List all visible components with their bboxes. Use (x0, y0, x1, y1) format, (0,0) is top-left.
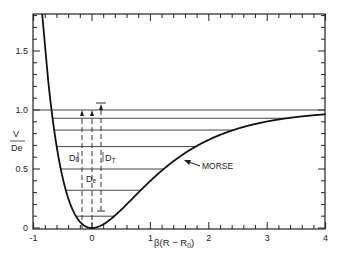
y-axis-numerator: V (13, 129, 19, 139)
tick-label: -1 (30, 233, 38, 243)
dissociation-arrows (82, 103, 106, 228)
x-axis-label: β(R − R0) (154, 237, 194, 249)
tick-label: 0.5 (15, 164, 28, 174)
tick-label: 0 (89, 233, 94, 243)
tick-label: 1 (148, 233, 153, 243)
dt-arrow-icon (99, 104, 103, 110)
de-label: De (86, 174, 97, 184)
plot-frame (33, 14, 325, 229)
morse-label: MORSE (202, 161, 234, 171)
morse-pointer-arrow-icon (184, 160, 191, 165)
morse-curve (42, 14, 325, 228)
tick-label: 2 (206, 233, 211, 243)
tick-label: 3 (265, 233, 270, 243)
de-arrow-icon (90, 110, 94, 116)
tick-label: 1.5 (15, 46, 28, 56)
energy-levels (33, 110, 325, 216)
tick-label: 4 (323, 233, 328, 243)
dt-label: DT (105, 153, 116, 164)
morse-potential-diagram: MORSE D0 De DT V De -10123400.51.01.5 β(… (0, 0, 337, 262)
axis-ticks (33, 14, 326, 229)
y-axis-denominator: De (11, 143, 23, 153)
tick-labels: -10123400.51.01.5 (15, 46, 328, 243)
tick-label: 1.0 (15, 105, 28, 115)
tick-label: 0 (23, 223, 28, 233)
d0-arrow-icon (80, 110, 84, 116)
